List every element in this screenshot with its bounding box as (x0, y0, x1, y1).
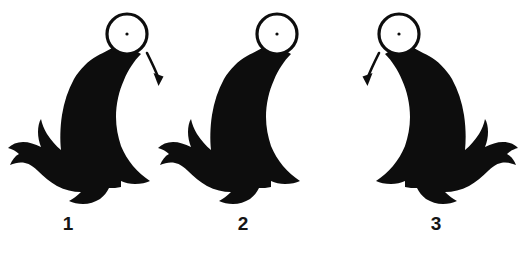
balanced-ball (257, 14, 297, 54)
ball-center-dot (125, 32, 128, 35)
panel-number-2: 2 (238, 213, 249, 234)
figure-sheet: 1 2 3 (0, 0, 520, 254)
balanced-ball (379, 14, 419, 54)
panel-number-3: 3 (431, 213, 442, 234)
ball-center-dot (275, 32, 278, 35)
balanced-ball (107, 14, 147, 54)
panel-number-1: 1 (63, 213, 74, 234)
ball-center-dot (397, 32, 400, 35)
